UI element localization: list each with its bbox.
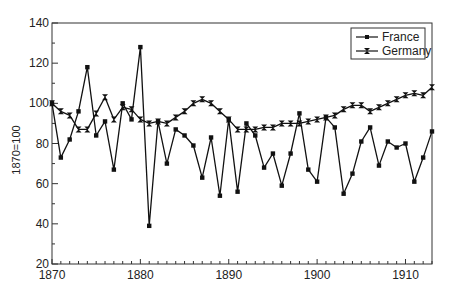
square-marker-icon xyxy=(403,141,407,145)
square-marker-icon xyxy=(333,125,337,129)
y-tick-label: 80 xyxy=(36,137,50,151)
legend-label-france: France xyxy=(382,30,420,44)
square-marker-icon xyxy=(341,192,345,196)
square-marker-icon xyxy=(191,143,195,147)
square-marker-icon xyxy=(271,151,275,155)
square-marker-icon xyxy=(174,127,178,131)
y-tick-label: 40 xyxy=(36,217,50,231)
square-marker-icon xyxy=(430,129,434,133)
square-marker-icon xyxy=(209,135,213,139)
square-marker-icon xyxy=(386,139,390,143)
square-marker-icon xyxy=(147,224,151,228)
square-marker-icon xyxy=(368,125,372,129)
square-marker-icon xyxy=(200,175,204,179)
square-marker-icon xyxy=(235,190,239,194)
square-marker-icon xyxy=(394,145,398,149)
square-marker-icon xyxy=(315,179,319,183)
square-marker-icon xyxy=(244,121,248,125)
square-marker-icon xyxy=(253,133,257,137)
square-marker-icon xyxy=(350,171,354,175)
y-tick-label: 120 xyxy=(29,56,49,70)
square-marker-icon xyxy=(85,65,89,69)
y-tick-label: 100 xyxy=(29,96,49,110)
square-marker-icon xyxy=(288,151,292,155)
square-marker-icon xyxy=(129,117,133,121)
square-marker-icon xyxy=(377,163,381,167)
square-marker-icon xyxy=(94,133,98,137)
x-tick-label: 1900 xyxy=(304,268,331,282)
square-marker-icon xyxy=(182,133,186,137)
x-tick-label: 1910 xyxy=(392,268,419,282)
y-axis-title: 1870=100 xyxy=(10,125,22,174)
square-marker-icon xyxy=(138,45,142,49)
square-marker-icon xyxy=(59,155,63,159)
square-marker-icon xyxy=(165,161,169,165)
legend: France Germany xyxy=(351,28,431,59)
square-marker-icon xyxy=(262,165,266,169)
square-marker-icon xyxy=(112,167,116,171)
square-marker-icon xyxy=(67,137,71,141)
x-tick-label: 1880 xyxy=(127,268,154,282)
x-tick-label: 1890 xyxy=(215,268,242,282)
square-marker-icon xyxy=(365,35,369,39)
square-marker-icon xyxy=(76,109,80,113)
square-marker-icon xyxy=(306,167,310,171)
square-marker-icon xyxy=(359,139,363,143)
y-tick-label: 20 xyxy=(36,257,50,271)
square-marker-icon xyxy=(218,194,222,198)
square-marker-icon xyxy=(280,183,284,187)
square-marker-icon xyxy=(421,155,425,159)
line-chart: 18701880189019001910 20406080100120140 1… xyxy=(0,0,451,292)
square-marker-icon xyxy=(412,179,416,183)
square-marker-icon xyxy=(103,119,107,123)
legend-label-germany: Germany xyxy=(382,44,431,58)
y-tick-label: 60 xyxy=(36,177,50,191)
square-marker-icon xyxy=(297,111,301,115)
y-tick-label: 140 xyxy=(29,16,49,30)
